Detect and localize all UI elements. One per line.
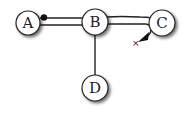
edge-b-c [107,17,151,38]
graph-diagram: × A B C D [0,0,188,113]
node-b-label: B [89,13,100,31]
arrow-head-icon [138,32,149,42]
node-c-label: C [156,14,167,32]
node-d-label: D [89,79,101,97]
x-marker: × [132,38,140,48]
edge-start-dot-icon [41,14,47,20]
node-a-label: A [22,14,34,32]
